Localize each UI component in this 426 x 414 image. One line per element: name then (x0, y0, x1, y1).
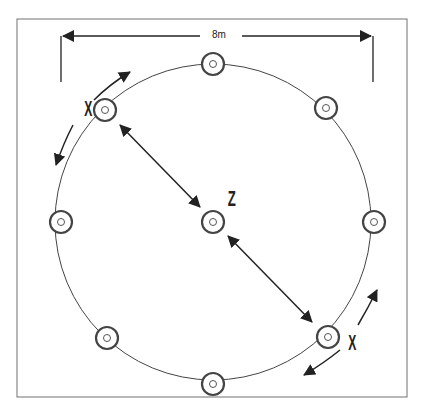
move-arrow-lr-down (304, 350, 340, 375)
pass-arrow-lower (228, 236, 312, 322)
center-player-label: Z (228, 188, 236, 210)
move-arrow-ul-down (56, 125, 73, 165)
marker-center (202, 211, 224, 233)
move-arrow-lr-up (358, 290, 377, 325)
marker-lower-right (317, 326, 339, 348)
marker-lower-left (96, 327, 118, 349)
pass-arrow-upper (120, 125, 200, 207)
move-arrow-ul-up (94, 72, 130, 100)
dimension-label: 8m (208, 30, 230, 40)
marker-bottom (202, 373, 224, 395)
diagram-canvas (0, 0, 426, 414)
marker-right (363, 211, 385, 233)
player-label-upper-left: X (84, 98, 92, 120)
marker-top (202, 53, 224, 75)
player-label-lower-right: X (348, 332, 356, 354)
marker-upper-left (94, 99, 116, 121)
marker-left (50, 211, 72, 233)
marker-upper-right (315, 97, 337, 119)
drill-diagram: 8m Z X X (0, 0, 426, 414)
